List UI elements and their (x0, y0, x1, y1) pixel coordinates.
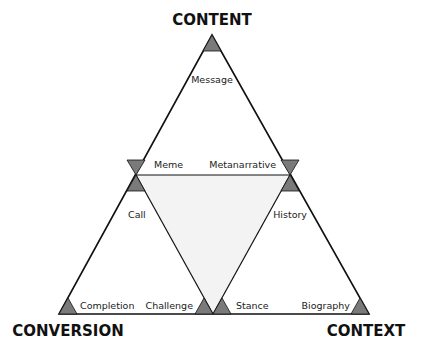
marker-completion (59, 298, 77, 314)
label-message: Message (191, 74, 233, 85)
inner-triangle (136, 175, 290, 314)
marker-content (203, 35, 221, 51)
triangle-diagram: CONTENT CONVERSION CONTEXT Message Meme … (0, 0, 431, 348)
label-challenge: Challenge (146, 300, 194, 311)
label-metanarrative: Metanarrative (209, 159, 276, 170)
marker-meme (127, 160, 145, 175)
marker-metanarrative (281, 160, 299, 175)
corner-label-conversion: CONVERSION (12, 322, 123, 340)
corner-label-content: CONTENT (172, 11, 252, 29)
label-call: Call (128, 209, 146, 220)
label-biography: Biography (302, 300, 351, 311)
label-meme: Meme (154, 159, 183, 170)
label-stance: Stance (236, 300, 269, 311)
label-completion: Completion (80, 300, 134, 311)
corner-label-context: CONTEXT (327, 322, 406, 340)
marker-biography (351, 298, 369, 314)
label-history: History (273, 209, 307, 220)
